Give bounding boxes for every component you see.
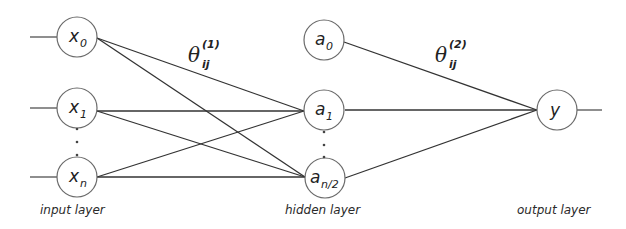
node-symbol: a: [315, 29, 325, 49]
edge-x0-a1: [97, 38, 304, 111]
node-symbol: a: [310, 167, 320, 187]
node-x0: x 0: [57, 17, 97, 57]
node-subscript: n/2: [321, 178, 339, 191]
neural-network-diagram: x 0 x 1 x n a 0 a 1: [0, 0, 626, 229]
theta-symbol: θ: [435, 43, 447, 67]
node-symbol: x: [68, 166, 80, 186]
node-symbol: y: [549, 100, 561, 120]
node-xn: x n: [57, 157, 97, 197]
theta-subscript: ij: [202, 58, 210, 71]
node-subscript: n: [80, 177, 87, 190]
node-subscript: 1: [326, 110, 333, 123]
node-subscript: 0: [326, 40, 333, 53]
theta-superscript: (2): [449, 38, 467, 51]
weight-label-theta-1: θ (1) ij: [188, 38, 220, 71]
node-symbol: x: [68, 26, 80, 46]
layer-label-hidden: hidden layer: [285, 203, 361, 217]
node-a1: a 1: [304, 90, 344, 130]
node-a0: a 0: [304, 20, 344, 60]
node-symbol: x: [68, 97, 80, 117]
ellipsis-hidden: [323, 131, 326, 159]
node-y: y: [537, 90, 577, 130]
node-x1: x 1: [57, 88, 97, 128]
node-symbol: a: [315, 99, 325, 119]
weight-label-theta-2: θ (2) ij: [435, 38, 467, 71]
layer-label-input: input layer: [40, 203, 106, 217]
ellipsis-input: [76, 128, 79, 157]
layer-label-output: output layer: [517, 203, 592, 217]
theta-symbol: θ: [188, 43, 200, 67]
edges-input-hidden: [97, 38, 305, 177]
theta-subscript: ij: [449, 58, 457, 71]
node-an2: a n/2: [305, 158, 345, 198]
edge-x0-an2: [97, 38, 305, 177]
theta-superscript: (1): [202, 38, 220, 51]
node-subscript: 0: [80, 37, 87, 50]
edge-an2-y: [345, 110, 537, 178]
input-lines: [30, 37, 57, 177]
node-subscript: 1: [80, 108, 87, 121]
